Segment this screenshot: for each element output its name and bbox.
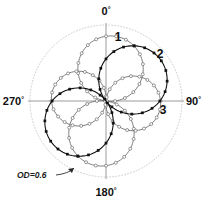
series-marker-3 xyxy=(126,129,129,132)
series-marker-3 xyxy=(51,91,54,94)
axis-label-right-degree: ° xyxy=(198,96,201,103)
series-marker-3 xyxy=(59,76,62,79)
series-marker-2 xyxy=(122,46,125,49)
series-marker-1 xyxy=(77,108,80,111)
series-marker-1 xyxy=(123,155,126,158)
series-marker-1 xyxy=(71,146,74,149)
axis-label-bottom-value: 180 xyxy=(95,186,113,198)
series-marker-2 xyxy=(99,94,102,97)
series-marker-2 xyxy=(97,149,100,152)
series-marker-1 xyxy=(129,147,132,150)
series-marker-2 xyxy=(89,89,92,92)
series-marker-1 xyxy=(86,90,89,93)
series-marker-2 xyxy=(159,100,162,103)
series-marker-1 xyxy=(115,103,118,106)
series-marker-2 xyxy=(112,122,115,125)
series-marker-3 xyxy=(102,86,105,89)
series-marker-2 xyxy=(97,77,100,80)
series-marker-2 xyxy=(164,90,167,93)
series-marker-1 xyxy=(129,118,132,121)
polar-plot-figure: 0° 90° 180° 270° OD=0.6 1 2 3 xyxy=(0,0,210,200)
series-marker-3 xyxy=(91,74,94,77)
axis-label-right: 90° xyxy=(186,95,201,107)
series-marker-1 xyxy=(85,161,88,164)
series-marker-2 xyxy=(45,130,48,133)
series-marker-1 xyxy=(77,61,80,64)
series-marker-3 xyxy=(142,127,145,130)
series-marker-1 xyxy=(132,91,135,94)
series-marker-2 xyxy=(59,92,62,95)
series-marker-2 xyxy=(99,88,102,91)
series-marker-3 xyxy=(150,123,153,126)
axis-label-bottom-degree: ° xyxy=(114,187,117,194)
series-marker-2 xyxy=(166,80,169,83)
series-marker-3 xyxy=(63,121,66,124)
series-marker-1 xyxy=(138,82,141,85)
series-marker-1 xyxy=(105,35,108,38)
od-annotation-label: OD=0.6 xyxy=(17,170,47,180)
series-marker-2 xyxy=(112,50,115,53)
series-marker-1 xyxy=(95,100,98,103)
series-marker-3 xyxy=(88,122,91,125)
series-marker-1 xyxy=(123,97,126,100)
series-marker-3 xyxy=(152,84,155,87)
series-marker-2 xyxy=(87,154,90,157)
series-marker-2 xyxy=(151,107,154,110)
series-marker-3 xyxy=(71,124,74,127)
series-marker-3 xyxy=(138,75,141,78)
series-marker-2 xyxy=(103,98,106,101)
series-marker-3 xyxy=(134,129,137,132)
series-marker-3 xyxy=(80,124,83,127)
series-marker-1 xyxy=(141,73,144,76)
series-marker-2 xyxy=(51,100,54,103)
series-marker-2 xyxy=(153,52,156,55)
series-marker-1 xyxy=(71,117,74,120)
series-marker-1 xyxy=(114,100,117,103)
series-marker-2 xyxy=(99,67,102,70)
series-marker-2 xyxy=(143,46,146,49)
series-marker-2 xyxy=(106,102,109,105)
series-marker-1 xyxy=(80,81,83,84)
series-marker-3 xyxy=(157,91,160,94)
series-marker-3 xyxy=(107,113,110,116)
series-marker-3 xyxy=(57,115,60,118)
axis-label-top-degree: ° xyxy=(108,6,111,13)
series-marker-3 xyxy=(75,70,78,73)
axis-label-left-degree: ° xyxy=(21,96,24,103)
series-marker-1 xyxy=(94,164,97,167)
series-marker-1 xyxy=(138,53,141,56)
series-marker-2 xyxy=(130,113,133,116)
axis-label-right-value: 90 xyxy=(186,95,198,107)
series-marker-1 xyxy=(132,138,135,141)
series-marker-2 xyxy=(57,148,60,151)
series-marker-3 xyxy=(121,77,124,80)
series-marker-1 xyxy=(141,63,144,66)
series-marker-3 xyxy=(67,72,70,75)
series-marker-1 xyxy=(123,109,126,112)
series-marker-1 xyxy=(114,161,117,164)
curve-label-1: 1 xyxy=(115,30,122,44)
series-marker-3 xyxy=(52,108,55,111)
series-marker-3 xyxy=(95,118,98,121)
series-marker-2 xyxy=(49,140,52,143)
series-marker-2 xyxy=(105,58,108,61)
series-marker-3 xyxy=(83,70,86,73)
series-marker-2 xyxy=(111,106,114,109)
series-marker-2 xyxy=(66,153,69,156)
series-marker-1 xyxy=(80,52,83,55)
series-marker-3 xyxy=(155,116,158,119)
series-marker-2 xyxy=(46,109,49,112)
series-marker-3 xyxy=(101,111,104,114)
curve-label-2: 2 xyxy=(157,47,164,61)
series-marker-2 xyxy=(105,142,108,145)
polar-plot-canvas: 0° 90° 180° 270° OD=0.6 1 2 3 xyxy=(0,0,210,200)
series-marker-2 xyxy=(68,88,71,91)
axis-label-left-value: 270 xyxy=(3,95,21,107)
series-marker-1 xyxy=(68,136,71,139)
series-marker-3 xyxy=(118,125,121,128)
od-leader-arrowhead xyxy=(68,168,74,173)
series-marker-2 xyxy=(79,87,82,90)
axis-label-top: 0° xyxy=(102,5,111,17)
series-marker-1 xyxy=(68,126,71,129)
axis-label-left: 270° xyxy=(3,95,24,107)
